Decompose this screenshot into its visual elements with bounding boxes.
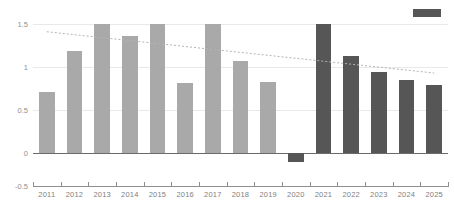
x-axis-tick [227, 182, 228, 187]
y-tick-label: -0.5 [6, 183, 28, 191]
y-tick-label: 1 [6, 64, 28, 72]
legend [413, 9, 445, 17]
x-axis-tick [393, 182, 394, 187]
x-axis-tick [310, 182, 311, 187]
x-axis-tick [420, 182, 421, 187]
declining-trendline [47, 32, 434, 73]
legend-swatch-forecast [413, 9, 441, 17]
x-axis-line [33, 186, 448, 187]
bar-chart: 1.5 1 0.5 0 -0.5 20112012201320142015201… [0, 0, 454, 215]
y-tick-label: 1.5 [6, 21, 28, 29]
x-axis-tick [365, 182, 366, 187]
x-axis-tick [33, 182, 34, 187]
x-tick-label: 2025 [417, 191, 451, 199]
x-axis-tick [171, 182, 172, 187]
x-axis-tick [61, 182, 62, 187]
y-tick-label: 0.5 [6, 107, 28, 115]
x-axis-tick [144, 182, 145, 187]
x-axis-tick [116, 182, 117, 187]
y-tick-label: 0 [6, 150, 28, 158]
x-axis-tick [448, 182, 449, 187]
x-axis-tick [199, 182, 200, 187]
plot-area [33, 10, 448, 160]
x-axis-tick [337, 182, 338, 187]
x-axis-tick [88, 182, 89, 187]
x-axis-tick [282, 182, 283, 187]
x-axis-tick [254, 182, 255, 187]
trendline-layer [33, 10, 448, 160]
